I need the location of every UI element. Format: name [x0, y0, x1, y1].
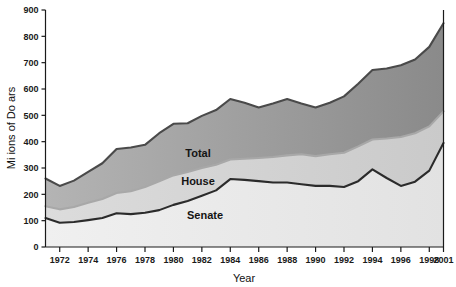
y-axis: 0100200300400500600700800900 — [23, 5, 45, 252]
x-tick-label: 1976 — [107, 255, 127, 265]
x-tick-label: 1972 — [50, 255, 70, 265]
x-tick-label: 1994 — [362, 255, 382, 265]
series-label-total: Total — [185, 147, 210, 159]
chart-container: 0100200300400500600700800900 19721974197… — [0, 0, 456, 287]
y-tick-label: 800 — [23, 32, 38, 42]
x-tick-label: 1984 — [220, 255, 240, 265]
x-tick-label: 1990 — [306, 255, 326, 265]
y-tick-label: 400 — [23, 137, 38, 147]
x-tick-label: 1986 — [249, 255, 269, 265]
series-label-senate: Senate — [187, 209, 223, 221]
area-chart: 0100200300400500600700800900 19721974197… — [0, 0, 456, 287]
y-tick-label: 700 — [23, 58, 38, 68]
x-tick-label: 1982 — [192, 255, 212, 265]
x-tick-label: 1978 — [135, 255, 155, 265]
y-tick-label: 300 — [23, 163, 38, 173]
plot-area — [46, 23, 444, 247]
x-tick-label: 2001 — [433, 255, 453, 265]
x-tick-label: 1974 — [78, 255, 98, 265]
y-tick-label: 0 — [33, 242, 38, 252]
y-axis-title: Mi ions of Do ars — [5, 86, 17, 169]
x-tick-label: 1996 — [391, 255, 411, 265]
y-tick-label: 500 — [23, 111, 38, 121]
y-tick-label: 200 — [23, 190, 38, 200]
y-tick-label: 900 — [23, 5, 38, 15]
y-axis-ticks: 0100200300400500600700800900 — [23, 5, 45, 252]
series-label-house: House — [181, 175, 215, 187]
x-tick-label: 1992 — [334, 255, 354, 265]
y-tick-label: 600 — [23, 84, 38, 94]
x-axis-ticks: 1972197419761978198019821984198619881990… — [50, 247, 454, 265]
y-tick-label: 100 — [23, 216, 38, 226]
x-tick-label: 1980 — [163, 255, 183, 265]
x-axis-title: Year — [233, 272, 256, 284]
x-tick-label: 1988 — [277, 255, 297, 265]
